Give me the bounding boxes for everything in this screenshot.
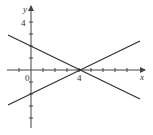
intersection-point — [78, 69, 81, 72]
x-tick-label-4: 4 — [77, 73, 82, 83]
chart: y 4 0 4 x — [0, 0, 153, 135]
y-tick-label-4: 4 — [21, 18, 26, 28]
descending-line — [8, 35, 140, 99]
x-axis-label: x — [139, 72, 144, 82]
origin-label: 0 — [25, 73, 30, 83]
y-axis-label: y — [22, 4, 27, 14]
